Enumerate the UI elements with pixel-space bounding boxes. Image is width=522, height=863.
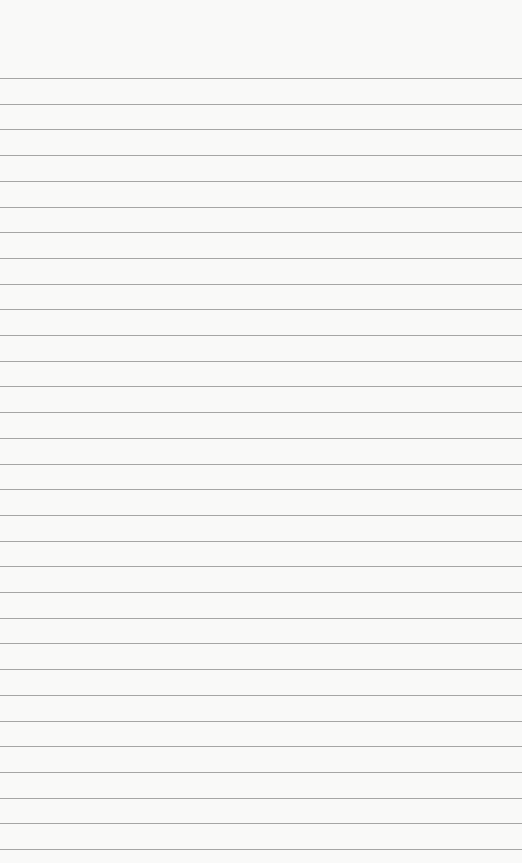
ruled-line xyxy=(0,155,522,156)
ruled-line xyxy=(0,258,522,259)
ruled-line xyxy=(0,386,522,387)
ruled-line xyxy=(0,695,522,696)
ruled-line xyxy=(0,232,522,233)
ruled-line xyxy=(0,309,522,310)
ruled-line xyxy=(0,104,522,105)
ruled-line xyxy=(0,721,522,722)
ruled-line xyxy=(0,335,522,336)
lined-paper xyxy=(0,0,522,863)
ruled-line xyxy=(0,207,522,208)
ruled-line xyxy=(0,592,522,593)
ruled-line xyxy=(0,798,522,799)
ruled-line xyxy=(0,181,522,182)
ruled-line xyxy=(0,412,522,413)
ruled-line xyxy=(0,669,522,670)
ruled-line xyxy=(0,746,522,747)
ruled-line xyxy=(0,849,522,850)
ruled-line xyxy=(0,284,522,285)
ruled-line xyxy=(0,438,522,439)
ruled-line xyxy=(0,464,522,465)
ruled-line xyxy=(0,541,522,542)
ruled-line xyxy=(0,361,522,362)
ruled-line xyxy=(0,78,522,79)
ruled-line xyxy=(0,129,522,130)
ruled-line xyxy=(0,823,522,824)
ruled-line xyxy=(0,643,522,644)
ruled-line xyxy=(0,566,522,567)
ruled-line xyxy=(0,515,522,516)
ruled-line xyxy=(0,489,522,490)
ruled-line xyxy=(0,618,522,619)
ruled-line xyxy=(0,772,522,773)
